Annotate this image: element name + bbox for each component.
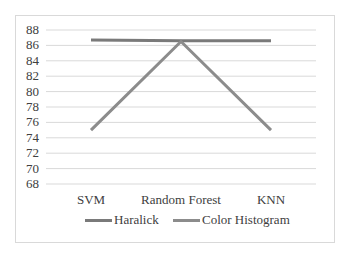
legend-label-haralick: Haralick: [114, 212, 159, 228]
chart-frame: 8886848280787674727068 SVMRandom ForestK…: [15, 15, 335, 243]
legend-swatch-haralick: [85, 219, 112, 222]
legend-item-color-histogram: Color Histogram: [173, 212, 290, 228]
legend: Haralick Color Histogram: [16, 212, 334, 228]
x-axis-ticks: SVMRandom ForestKNN: [16, 16, 334, 242]
legend-item-haralick: Haralick: [85, 212, 159, 228]
legend-label-color-histogram: Color Histogram: [202, 212, 290, 228]
legend-swatch-color-histogram: [173, 219, 200, 222]
x-tick-label: KNN: [211, 192, 331, 208]
